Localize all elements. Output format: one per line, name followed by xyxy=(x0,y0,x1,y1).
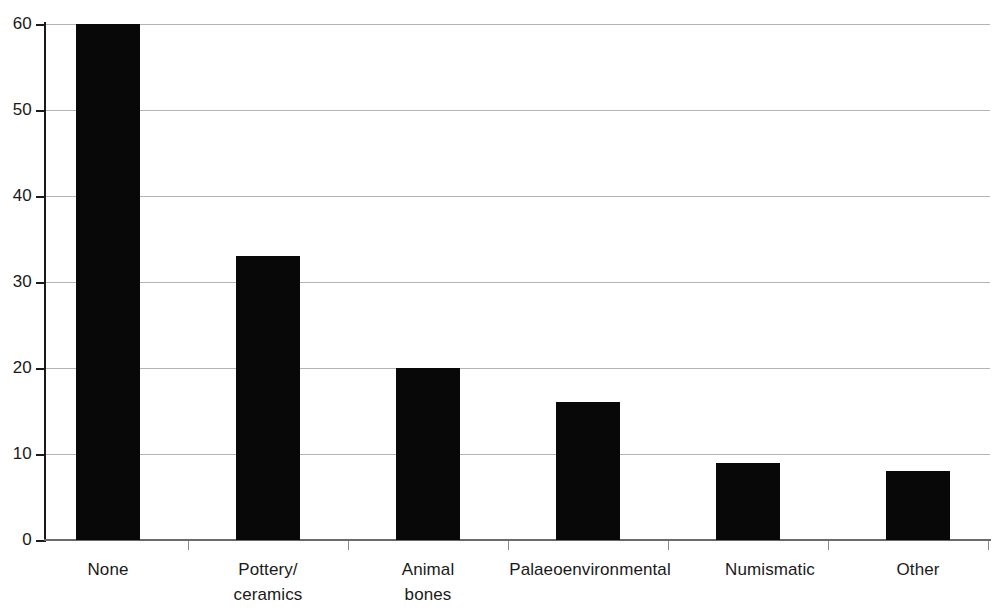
x-tick-mark xyxy=(188,541,189,550)
bar xyxy=(716,463,780,540)
bar xyxy=(396,368,460,540)
bar-chart: 0102030405060 NonePottery/ceramicsAnimal… xyxy=(0,0,993,614)
x-tick-mark xyxy=(988,541,989,550)
bar xyxy=(76,24,140,540)
x-axis-label-line: bones xyxy=(288,582,568,607)
y-tick-label: 30 xyxy=(0,271,32,293)
bar xyxy=(886,471,950,540)
y-tick-label: 10 xyxy=(0,443,32,465)
x-tick-mark xyxy=(828,541,829,550)
y-tick-label: 20 xyxy=(0,357,32,379)
x-tick-mark xyxy=(348,541,349,550)
y-tick-label: 40 xyxy=(0,185,32,207)
x-axis-label: Other xyxy=(778,557,993,582)
y-tick-label: 0 xyxy=(0,529,32,551)
plot-area xyxy=(44,24,990,540)
bar xyxy=(556,402,620,540)
x-tick-mark xyxy=(668,541,669,550)
y-tick-label: 60 xyxy=(0,13,32,35)
bar xyxy=(236,256,300,540)
x-axis-label-line: Other xyxy=(896,560,939,579)
x-axis-label-line: None xyxy=(87,560,128,579)
y-tick-label: 50 xyxy=(0,99,32,121)
x-tick-mark xyxy=(508,541,509,550)
